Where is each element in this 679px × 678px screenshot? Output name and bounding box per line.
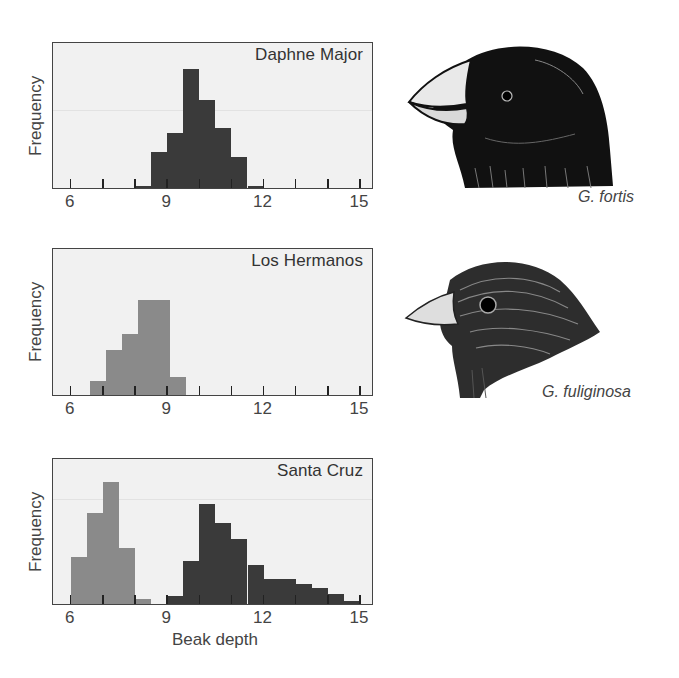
species-label-fuliginosa: G. fuliginosa xyxy=(542,383,631,401)
plot-area: Santa Cruz xyxy=(52,458,373,605)
x-tick-mark xyxy=(166,595,168,604)
histogram-bar xyxy=(87,513,103,604)
histogram-bar xyxy=(119,548,135,604)
x-tick-label: 15 xyxy=(350,608,369,628)
x-tick-mark xyxy=(263,595,265,604)
species-label-fortis: G. fortis xyxy=(578,188,634,206)
histogram-bar xyxy=(296,584,312,604)
x-tick-label: 6 xyxy=(65,608,74,628)
x-tick-mark xyxy=(102,595,104,604)
histogram-bar xyxy=(103,482,119,604)
figure-caption-cut-off xyxy=(18,674,618,678)
x-axis-label: Beak depth xyxy=(172,630,258,650)
histogram-bar xyxy=(231,539,247,604)
histogram-bar xyxy=(264,579,280,604)
x-tick-label: 9 xyxy=(161,608,170,628)
x-tick-mark xyxy=(231,595,233,604)
chart-title: Santa Cruz xyxy=(277,461,363,481)
histogram-bar xyxy=(248,565,264,604)
histogram-bar xyxy=(183,561,199,604)
panel-santa-cruz: Frequency Santa Cruz 691215 Beak depth xyxy=(0,0,390,660)
histogram-bar xyxy=(328,594,344,604)
x-tick-mark xyxy=(134,595,136,604)
x-tick-mark xyxy=(359,595,361,604)
histogram-bar xyxy=(344,601,360,604)
x-tick-mark xyxy=(199,595,201,604)
histogram-bar xyxy=(135,599,151,604)
g-fortis-illustration xyxy=(405,38,620,193)
x-tick-mark xyxy=(327,595,329,604)
g-fuliginosa-illustration xyxy=(400,250,610,400)
histogram-bar xyxy=(215,523,231,604)
histogram-bar xyxy=(280,579,296,604)
histogram-bar xyxy=(71,557,87,604)
x-tick-label: 12 xyxy=(253,608,272,628)
x-tick-mark xyxy=(295,595,297,604)
y-axis-label: Frequency xyxy=(26,459,46,605)
x-tick-mark xyxy=(70,595,72,604)
histogram-bar xyxy=(167,596,183,604)
histogram-bar xyxy=(199,504,215,604)
histogram-bar xyxy=(312,588,328,604)
